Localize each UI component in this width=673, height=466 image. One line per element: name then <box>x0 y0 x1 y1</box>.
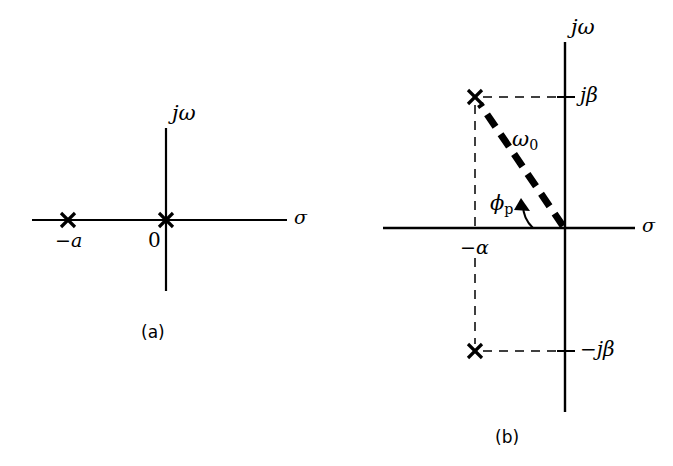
panel-b-pole-marker-lower <box>468 344 482 358</box>
panel-a-jomega-axis-label: jω <box>172 103 196 124</box>
panel-a-sigma-axis-label: σ <box>294 208 307 227</box>
panel-b-jomega-axis-label: jω <box>571 17 595 38</box>
panel-b-tick-label-j-beta: jβ <box>580 85 598 105</box>
panel-b-phi-arrowhead <box>514 198 530 211</box>
panel-b-phi-label-base: ϕ <box>490 191 504 215</box>
figure-canvas <box>0 0 673 466</box>
panel-b-phi-label-subscript: p <box>504 201 513 217</box>
panel-a-graphics <box>32 128 287 291</box>
panel-b-pole-label-minus-alpha: −α <box>460 238 489 257</box>
panel-b-omega0-label-base: ω <box>512 127 529 151</box>
pole-zero-figure: jω σ 0 −a (a) jω σ jβ −jβ −α ω0 ϕp (b) <box>0 0 673 466</box>
panel-b-omega0-label-subscript: 0 <box>529 137 538 153</box>
panel-b-omega0-label: ω0 <box>512 129 538 152</box>
panel-a-pole-label-minus-a: −a <box>55 231 82 250</box>
panel-a-origin-label: 0 <box>148 230 161 250</box>
panel-b-pole-marker-upper <box>468 90 482 104</box>
panel-b-caption: (b) <box>495 429 519 446</box>
panel-b-sigma-axis-label: σ <box>642 216 655 235</box>
panel-b-phi-label: ϕp <box>490 193 513 216</box>
panel-b-tick-label-minus-j-beta: −jβ <box>580 339 615 359</box>
panel-a-caption: (a) <box>141 324 165 341</box>
